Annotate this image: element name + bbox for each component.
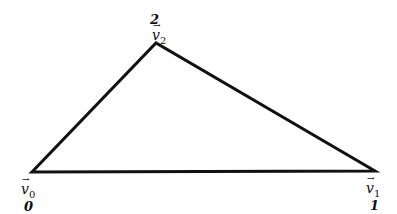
vertex-v0-label: →v0 [21, 181, 35, 200]
index-label: 0 [24, 199, 33, 214]
triangle-shape [32, 43, 375, 172]
vertex-v2-label: →v2 [152, 27, 166, 46]
vector-subscript: 2 [160, 35, 166, 46]
index-label: 1 [370, 198, 379, 213]
triangle-diagram [0, 0, 397, 214]
vector-label: →v2 [152, 27, 166, 43]
vertex-v1-index: 1 [370, 197, 379, 213]
vector-arrow-icon: → [153, 21, 161, 30]
vector-arrow-icon: → [367, 174, 375, 183]
vector-label: →v1 [366, 180, 380, 196]
vertex-v0-index: 0 [24, 198, 33, 214]
vector-label: →v0 [21, 181, 35, 197]
vertex-v1-label: →v1 [366, 180, 380, 199]
vector-arrow-icon: → [22, 175, 30, 184]
